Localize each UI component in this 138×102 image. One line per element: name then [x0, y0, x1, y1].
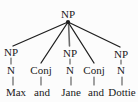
node-conj-1: Conj [30, 65, 51, 76]
node-n-1: N [7, 65, 15, 76]
root-apex-point [66, 20, 70, 24]
node-root-np: NP [61, 9, 75, 20]
node-n-2: N [66, 65, 74, 76]
terminal-word-dottie: Dottie [108, 87, 136, 98]
node-np-2: NP [63, 48, 77, 59]
terminal-word-jane: Jane [61, 87, 81, 98]
node-np-3: NP [114, 49, 128, 60]
terminal-word-max: Max [6, 87, 26, 98]
node-n-3: N [117, 65, 125, 76]
terminal-word-and-2: and [88, 87, 104, 98]
node-conj-2: Conj [83, 65, 104, 76]
terminal-word-and-1: and [34, 87, 50, 98]
node-np-1: NP [4, 47, 18, 58]
syntax-tree-diagram: NP NP Conj NP Conj NP N N N Max and Jane… [0, 0, 138, 102]
branch-root-to-np2 [69, 22, 70, 46]
